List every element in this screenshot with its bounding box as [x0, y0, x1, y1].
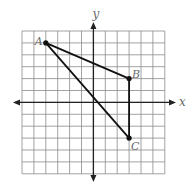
arrow-left-icon	[13, 99, 20, 105]
arrow-right-icon	[169, 99, 176, 105]
coordinate-plane: x y A B C	[0, 0, 195, 186]
vertex-label-c: C	[131, 140, 140, 153]
vertex-dot-a	[43, 40, 48, 45]
arrow-down-icon	[90, 175, 96, 182]
y-axis-label: y	[91, 7, 99, 21]
vertex-dot-b	[127, 76, 132, 81]
arrow-up-icon	[90, 22, 96, 29]
x-axis-label: x	[179, 95, 186, 109]
vertex-label-b: B	[131, 68, 140, 81]
vertex-label-a: A	[34, 35, 43, 48]
